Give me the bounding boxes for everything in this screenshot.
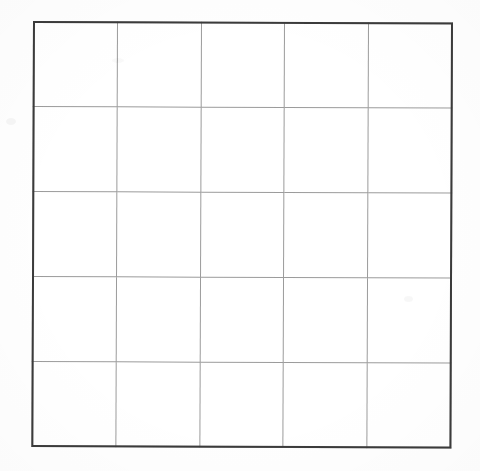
table-cell[interactable]: [116, 362, 200, 447]
table-cell[interactable]: [117, 22, 201, 107]
grid-table-container: [31, 21, 453, 449]
empty-grid-table[interactable]: [31, 21, 453, 449]
table-cell[interactable]: [200, 277, 284, 362]
table-cell[interactable]: [33, 192, 117, 277]
table-cell[interactable]: [368, 193, 452, 278]
scan-smudge: [6, 118, 16, 125]
table-cell[interactable]: [199, 362, 283, 447]
table-row[interactable]: [33, 192, 452, 279]
table-cell[interactable]: [284, 192, 368, 277]
table-cell[interactable]: [32, 361, 116, 446]
table-cell[interactable]: [116, 277, 200, 362]
table-cell[interactable]: [367, 278, 451, 363]
table-cell[interactable]: [285, 22, 369, 107]
table-row[interactable]: [33, 22, 452, 109]
table-cell[interactable]: [367, 363, 451, 448]
table-cell[interactable]: [368, 23, 452, 108]
table-row[interactable]: [32, 361, 451, 448]
table-cell[interactable]: [200, 107, 284, 192]
table-cell[interactable]: [33, 107, 117, 192]
table-cell[interactable]: [117, 107, 201, 192]
table-cell[interactable]: [200, 192, 284, 277]
table-cell[interactable]: [32, 277, 116, 362]
table-cell[interactable]: [201, 22, 285, 107]
table-row[interactable]: [32, 277, 451, 364]
table-row[interactable]: [33, 107, 452, 194]
scan-canvas: [0, 0, 480, 471]
table-cell[interactable]: [368, 108, 452, 193]
table-cell[interactable]: [284, 277, 368, 362]
table-cell[interactable]: [33, 22, 117, 107]
grid-table-body: [32, 22, 453, 449]
table-cell[interactable]: [283, 362, 367, 447]
table-cell[interactable]: [116, 192, 200, 277]
table-cell[interactable]: [284, 107, 368, 192]
